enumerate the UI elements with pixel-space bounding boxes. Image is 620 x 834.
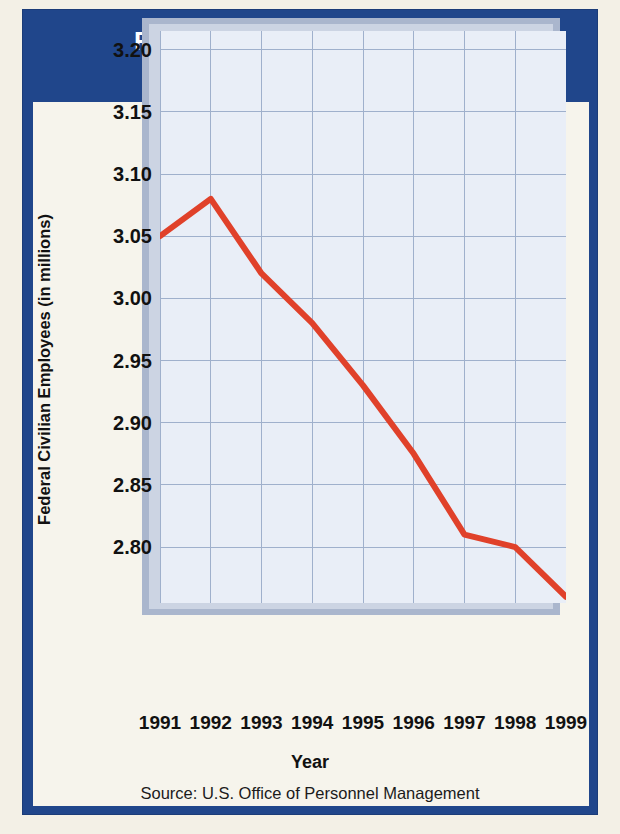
y-axis-tick-labels: 2.802.852.902.953.003.053.103.153.20	[80, 0, 152, 834]
x-axis-title: Year	[0, 752, 620, 773]
y-tick-label: 3.10	[80, 163, 152, 186]
y-tick-label: 2.80	[80, 536, 152, 559]
x-tick-label: 1998	[494, 712, 536, 734]
plot-area	[160, 31, 566, 603]
y-tick-label: 2.95	[80, 349, 152, 372]
x-tick-label: 1994	[291, 712, 333, 734]
x-tick-label: 1997	[443, 712, 485, 734]
x-tick-label: 1996	[393, 712, 435, 734]
line-chart-svg	[160, 31, 566, 603]
y-tick-label: 3.05	[80, 225, 152, 248]
y-axis-title: Federal Civilian Employees (in millions)	[35, 160, 54, 580]
y-tick-label: 2.90	[80, 411, 152, 434]
x-tick-label: 1999	[545, 712, 587, 734]
chart-page: Federal Civilian Employment (1991–1999) …	[0, 0, 620, 834]
source-note: Source: U.S. Office of Personnel Managem…	[0, 784, 620, 803]
y-tick-label: 3.20	[80, 38, 152, 61]
y-tick-label: 2.85	[80, 473, 152, 496]
x-axis-tick-labels: 199119921993199419951996199719981999	[0, 712, 620, 742]
x-tick-label: 1992	[190, 712, 232, 734]
x-tick-label: 1993	[240, 712, 282, 734]
x-tick-label: 1995	[342, 712, 384, 734]
x-tick-label: 1991	[139, 712, 181, 734]
y-tick-label: 3.00	[80, 287, 152, 310]
y-tick-label: 3.15	[80, 100, 152, 123]
